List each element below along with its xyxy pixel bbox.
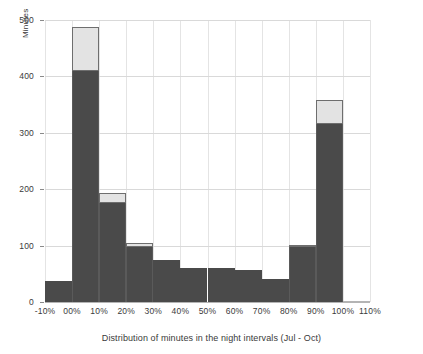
y-tick-mark-400: [40, 76, 44, 77]
bar-segment-light-00%: [72, 27, 99, 71]
gridline-x-110%: [370, 20, 371, 302]
bar-segment-dark-00%: [72, 71, 99, 302]
y-tick-label-300: 300: [0, 129, 34, 138]
y-tick-label-400: 400: [0, 72, 34, 81]
bar-30%: [153, 260, 180, 302]
x-axis-title: Distribution of minutes in the night int…: [0, 333, 423, 344]
gridline-y-0: [45, 302, 370, 303]
bar-40%: [180, 268, 207, 302]
gridline-x-100%: [343, 20, 344, 302]
bar-90%: [316, 100, 343, 302]
bar-segment-light-20%: [126, 243, 153, 247]
plot-area: [45, 20, 370, 302]
bar-60%: [235, 270, 262, 302]
bar-segment-light-10%: [99, 193, 126, 203]
bar-segment-dark-40%: [180, 268, 207, 302]
bar-10%: [99, 193, 126, 302]
y-tick-mark-0: [40, 302, 44, 303]
bar-70%: [262, 279, 289, 302]
bar-segment-dark-70%: [262, 279, 289, 302]
y-tick-mark-100: [40, 246, 44, 247]
y-tick-mark-300: [40, 133, 44, 134]
gridline-x-40%: [180, 20, 181, 302]
gridline-x-70%: [262, 20, 263, 302]
bar-segment-light-80%: [289, 245, 316, 247]
bar-segment-dark-50%: [208, 268, 235, 302]
y-tick-label-200: 200: [0, 185, 34, 194]
bar-00%: [72, 27, 99, 302]
bar-segment-dark-60%: [235, 270, 262, 302]
gridline-x--10%: [45, 20, 46, 302]
bar-zero-100%: [343, 301, 370, 302]
x-tick-label-110%: 110%: [350, 306, 390, 316]
bar-segment-dark-30%: [153, 260, 180, 302]
bar-segment-dark-90%: [316, 124, 343, 302]
bar-50%: [208, 268, 235, 302]
y-tick-mark-200: [40, 189, 44, 190]
bar-20%: [126, 243, 153, 302]
y-tick-mark-500: [40, 20, 44, 21]
bar-segment-dark-20%: [126, 247, 153, 302]
bar--10%: [45, 281, 72, 302]
gridline-x-60%: [235, 20, 236, 302]
bar-segment-dark-80%: [289, 247, 316, 302]
gridline-x-50%: [208, 20, 209, 302]
bar-segment-dark-10%: [99, 203, 126, 302]
bar-100%: [343, 301, 370, 302]
bar-80%: [289, 246, 316, 302]
y-tick-label-100: 100: [0, 242, 34, 251]
gridline-y-500: [45, 20, 370, 21]
bar-segment-dark--10%: [45, 281, 72, 302]
histogram-chart: Minutes 0100200300400500 -10%00%10%20%30…: [0, 0, 423, 354]
y-tick-label-500: 500: [0, 16, 34, 25]
bar-segment-light-90%: [316, 100, 343, 124]
